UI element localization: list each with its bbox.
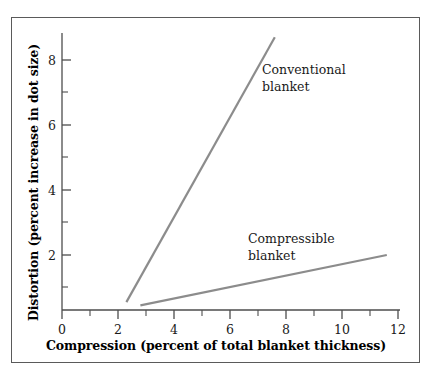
annotation-conventional-line1: Conventional [262, 62, 346, 79]
x-tick-label-8: 8 [282, 322, 290, 337]
x-axis-major-ticks [62, 310, 398, 319]
x-tick-label-2: 2 [114, 322, 122, 337]
y-tick-label-6: 6 [42, 118, 56, 133]
chart-figure: 0 2 4 6 8 10 12 2 4 6 8 Compression (per… [0, 0, 432, 379]
y-tick-label-4: 4 [42, 183, 56, 198]
x-tick-label-10: 10 [334, 322, 350, 337]
x-tick-label-4: 4 [170, 322, 178, 337]
annotation-compressible-line2: blanket [248, 248, 335, 265]
y-tick-label-2: 2 [42, 248, 56, 263]
annotation-compressible-blanket: Compressible blanket [248, 231, 335, 265]
x-axis-title: Compression (percent of total blanket th… [0, 338, 432, 353]
y-tick-label-8: 8 [42, 53, 56, 68]
x-tick-label-0: 0 [58, 322, 66, 337]
annotation-conventional-blanket: Conventional blanket [262, 62, 346, 96]
annotation-conventional-line2: blanket [262, 79, 346, 96]
y-axis-title: Distortion (percent increase in dot size… [26, 33, 41, 333]
x-tick-label-12: 12 [390, 322, 406, 337]
x-tick-label-6: 6 [226, 322, 234, 337]
annotation-compressible-line1: Compressible [248, 231, 335, 248]
